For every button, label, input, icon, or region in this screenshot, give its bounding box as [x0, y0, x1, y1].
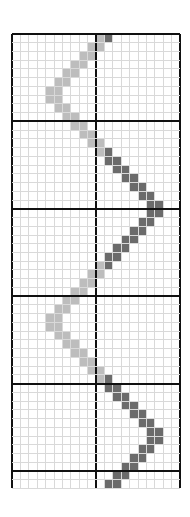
minor-horizontal-line	[12, 304, 180, 305]
major-horizontal-line	[12, 33, 180, 35]
major-horizontal-line	[12, 383, 180, 385]
minor-horizontal-line	[12, 147, 180, 148]
minor-horizontal-line	[12, 331, 180, 332]
minor-horizontal-line	[12, 278, 180, 279]
minor-horizontal-line	[12, 200, 180, 201]
minor-horizontal-line	[12, 51, 180, 52]
minor-horizontal-line	[12, 138, 180, 139]
major-horizontal-line	[12, 295, 180, 297]
minor-horizontal-line	[12, 86, 180, 87]
minor-horizontal-line	[12, 95, 180, 96]
minor-horizontal-line	[12, 252, 180, 253]
minor-horizontal-line	[12, 130, 180, 131]
minor-horizontal-line	[12, 112, 180, 113]
minor-horizontal-line	[12, 182, 180, 183]
minor-horizontal-line	[12, 60, 180, 61]
minor-horizontal-line	[12, 392, 180, 393]
minor-horizontal-line	[12, 313, 180, 314]
minor-horizontal-line	[12, 261, 180, 262]
minor-horizontal-line	[12, 68, 180, 69]
minor-horizontal-line	[12, 462, 180, 463]
minor-horizontal-line	[12, 42, 180, 43]
minor-horizontal-line	[12, 217, 180, 218]
minor-horizontal-line	[12, 269, 180, 270]
minor-horizontal-line	[12, 374, 180, 375]
minor-horizontal-line	[12, 418, 180, 419]
minor-horizontal-line	[12, 427, 180, 428]
minor-horizontal-line	[12, 488, 180, 489]
minor-horizontal-line	[12, 191, 180, 192]
major-horizontal-line	[12, 120, 180, 122]
minor-horizontal-line	[12, 444, 180, 445]
minor-horizontal-line	[12, 235, 180, 236]
major-horizontal-line	[12, 470, 180, 472]
minor-horizontal-line	[12, 243, 180, 244]
minor-horizontal-line	[12, 103, 180, 104]
minor-horizontal-line	[12, 165, 180, 166]
pattern-grid	[12, 34, 180, 489]
minor-horizontal-line	[12, 173, 180, 174]
minor-horizontal-line	[12, 436, 180, 437]
minor-horizontal-line	[12, 156, 180, 157]
minor-horizontal-line	[12, 77, 180, 78]
minor-horizontal-line	[12, 401, 180, 402]
minor-horizontal-line	[12, 479, 180, 480]
minor-horizontal-line	[12, 453, 180, 454]
minor-horizontal-line	[12, 366, 180, 367]
minor-horizontal-line	[12, 287, 180, 288]
minor-horizontal-line	[12, 409, 180, 410]
minor-horizontal-line	[12, 226, 180, 227]
minor-horizontal-line	[12, 348, 180, 349]
minor-horizontal-line	[12, 322, 180, 323]
minor-horizontal-line	[12, 339, 180, 340]
minor-horizontal-line	[12, 357, 180, 358]
major-horizontal-line	[12, 208, 180, 210]
